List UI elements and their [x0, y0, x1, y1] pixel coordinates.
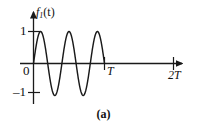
y-tick-label-one: 1	[20, 24, 27, 37]
y-tick-label-negative-one: –1	[13, 85, 26, 98]
figure-container: f1(t) 1 –1 0 T 2T (a)	[0, 0, 207, 130]
x-tick-label-t: T	[107, 65, 114, 77]
origin-label: 0	[23, 64, 30, 77]
y-axis-label: f1(t)	[36, 6, 55, 20]
x-tick-label-2t: 2T	[168, 69, 181, 81]
figure-caption: (a)	[0, 107, 207, 122]
y-axis-label-argument: (t)	[43, 5, 54, 19]
